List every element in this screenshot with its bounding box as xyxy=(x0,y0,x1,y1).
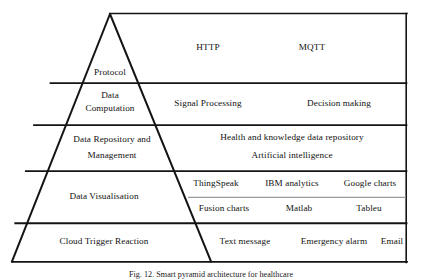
tech-label-decision-making: Decision making xyxy=(284,98,394,110)
tech-label-matlab: Matlab xyxy=(266,203,332,215)
tech-label-artificial-intelligence: Artificial intelligence xyxy=(180,150,404,162)
stage-label-protocol: Protocol xyxy=(74,67,146,79)
tech-label-emergency-alarm: Emergency alarm xyxy=(284,236,384,248)
tech-label-fusion-charts: Fusion charts xyxy=(186,203,262,215)
tech-label-tableu: Tableu xyxy=(336,203,402,215)
tech-label-health-knowledge-data-repository: Health and knowledge data repository xyxy=(180,132,404,144)
tech-label-http: HTTP xyxy=(170,42,246,54)
tech-label-text-message: Text message xyxy=(206,236,284,248)
figure-caption: Fig. 12. Smart pyramid architecture for … xyxy=(0,270,422,279)
stage-label-data-visualisation: Data Visualisation xyxy=(24,191,184,203)
tech-label-mqtt: MQTT xyxy=(274,42,350,54)
tech-label-thingspeak: ThingSpeak xyxy=(180,178,252,190)
stage-label-data-computation-line2: Computation xyxy=(54,103,166,115)
tech-label-signal-processing: Signal Processing xyxy=(152,98,264,110)
tech-label-ibm-analytics: IBM analytics xyxy=(252,178,332,190)
stage-label-data-computation-line1: Data xyxy=(62,90,158,102)
stage-label-data-repository-line2: Management xyxy=(34,150,190,162)
tech-label-email: Email xyxy=(374,236,410,248)
tech-label-google-charts: Google charts xyxy=(332,178,408,190)
stage-label-cloud-trigger-reaction: Cloud Trigger Reaction xyxy=(12,236,196,248)
stage-label-data-repository-line1: Data Repository and xyxy=(34,134,190,146)
figure-container: Protocol Data Computation Data Repositor… xyxy=(0,0,422,279)
